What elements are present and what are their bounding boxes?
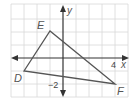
- vertex-label-e: E: [37, 19, 45, 31]
- x-axis-left-arrow-icon: [11, 55, 18, 61]
- y-tick-label-neg2: −2: [48, 80, 58, 90]
- y-axis-bottom-arrow-icon: [60, 90, 66, 97]
- y-axis-label: y: [66, 5, 73, 16]
- vertex-label-f: F: [117, 85, 125, 97]
- x-tick-label-4: 4: [111, 60, 116, 70]
- coordinate-plane: y x 4 −2 E D F: [0, 0, 133, 99]
- vertex-label-d: D: [14, 72, 22, 84]
- x-axis-label: x: [120, 59, 127, 70]
- y-axis-top-arrow-icon: [60, 5, 66, 12]
